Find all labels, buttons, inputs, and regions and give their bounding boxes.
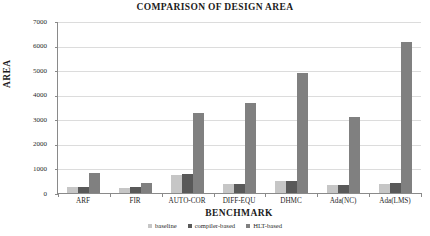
bar[interactable] — [275, 181, 286, 193]
x-axis-tick-label: AUTO-COR — [161, 197, 213, 205]
bar[interactable] — [401, 42, 412, 193]
bar-group — [162, 22, 214, 193]
bar[interactable] — [379, 184, 390, 193]
chart-title: COMPARISON OF DESIGN AREA — [0, 2, 430, 12]
legend-swatch-icon — [246, 224, 250, 228]
chart-legend: baselinecompiler-basedHLT-based — [0, 222, 430, 229]
x-axis-tick-label: FIR — [109, 197, 161, 205]
bar[interactable] — [245, 103, 256, 193]
bar[interactable] — [67, 187, 78, 193]
bar-group — [369, 22, 421, 193]
x-axis-tick-label: DIFF-EQU — [213, 197, 265, 205]
legend-label: HLT-based — [253, 222, 282, 229]
bar[interactable] — [182, 174, 193, 193]
x-axis-tick-mark — [421, 193, 422, 197]
bar-group — [214, 22, 266, 193]
bar-group — [265, 22, 317, 193]
y-axis-tick-label: 1000 — [13, 166, 47, 173]
x-axis-tick-label: Ada(NC) — [317, 197, 369, 205]
x-axis-tick-label: Ada(LMS) — [369, 197, 421, 205]
bar[interactable] — [234, 184, 245, 193]
bar[interactable] — [223, 184, 234, 193]
legend-label: compiler-based — [195, 222, 236, 229]
legend-swatch-icon — [148, 224, 152, 228]
bar[interactable] — [193, 113, 204, 193]
bar[interactable] — [338, 185, 349, 193]
y-axis-tick-label: 0 — [13, 191, 47, 198]
bar[interactable] — [327, 185, 338, 193]
bar[interactable] — [390, 183, 401, 193]
y-axis-tick-label: 2000 — [13, 141, 47, 148]
bar[interactable] — [78, 187, 89, 193]
legend-item[interactable]: baseline — [148, 222, 177, 229]
bar[interactable] — [349, 117, 360, 193]
bar[interactable] — [286, 181, 297, 193]
y-axis-tick-label: 7000 — [13, 19, 47, 26]
y-axis-tick-label: 3000 — [13, 117, 47, 124]
x-axis-tick-label: DHMC — [265, 197, 317, 205]
bar-group — [110, 22, 162, 193]
bar[interactable] — [89, 173, 100, 193]
legend-swatch-icon — [188, 224, 192, 228]
y-axis-tick-label: 4000 — [13, 92, 47, 99]
bar[interactable] — [297, 73, 308, 193]
bar[interactable] — [141, 183, 152, 193]
x-axis-tick-label: ARF — [57, 197, 109, 205]
y-axis-tick-label: 5000 — [13, 68, 47, 75]
y-axis-title: AREA — [2, 59, 12, 88]
bar-series-layer — [58, 22, 421, 193]
bar[interactable] — [119, 188, 130, 193]
bar-group — [317, 22, 369, 193]
chart-figure: COMPARISON OF DESIGN AREA AREA 010002000… — [0, 0, 430, 236]
legend-label: baseline — [155, 222, 177, 229]
x-axis-title: BENCHMARK — [57, 208, 421, 218]
bar[interactable] — [171, 175, 182, 193]
bar[interactable] — [130, 187, 141, 193]
legend-item[interactable]: compiler-based — [188, 222, 236, 229]
bar-group — [58, 22, 110, 193]
legend-item[interactable]: HLT-based — [246, 222, 282, 229]
x-axis-tick-labels: ARFFIRAUTO-CORDIFF-EQUDHMCAda(NC)Ada(LMS… — [57, 197, 421, 205]
plot-area: 01000200030004000500060007000 — [57, 22, 421, 194]
y-axis-tick-label: 6000 — [13, 43, 47, 50]
